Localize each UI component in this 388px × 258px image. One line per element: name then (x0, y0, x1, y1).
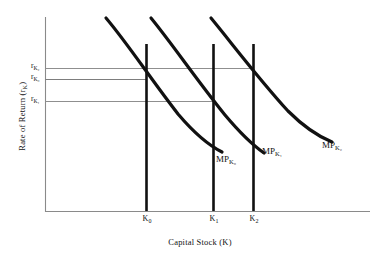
mp-curve-K2 (211, 18, 332, 142)
x-axis-title: Capital Stock (K) (120, 238, 280, 247)
y-tick-label-rK2: rK₂ (31, 62, 40, 70)
capital-market-chart: rK₂ rK₀ rK₁ Rate of Return (rK) K0 K1 K2… (0, 0, 388, 258)
x-tick-label-K1: K1 (204, 215, 224, 223)
y-tick-label-rK0: rK₀ (31, 73, 40, 81)
y-axis-title: Rate of Return (rK) (18, 46, 27, 186)
x-tick-label-K0: K0 (137, 215, 157, 223)
x-tick-label-K2: K2 (244, 215, 264, 223)
mp-curve-K1 (151, 18, 264, 153)
curve-label-MP-K1: MPK₁ (262, 147, 282, 156)
y-tick-label-rK1: rK₁ (31, 95, 40, 103)
mp-curve-K0 (106, 18, 222, 152)
curve-label-MP-K0: MPK₀ (216, 155, 236, 164)
chart-plot-area (0, 0, 388, 258)
curve-label-MP-K2: MPK₂ (322, 141, 342, 150)
